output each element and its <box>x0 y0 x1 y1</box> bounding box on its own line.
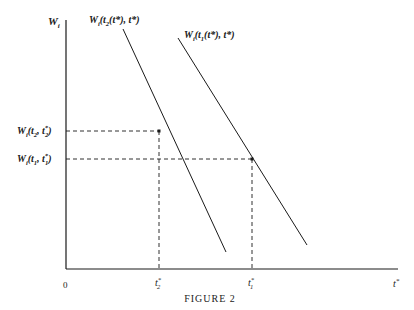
curve-wi-t1-label: Wi(t1(t*), t*) <box>184 29 235 42</box>
curve-wi-t2-label: Wi(t2(t*), t*) <box>89 14 140 27</box>
curve-wi-t2 <box>123 29 226 252</box>
x-axis-label: t* <box>393 277 400 289</box>
y-label-point-t1: Wi(t1, t*1) <box>17 152 52 166</box>
origin-label: 0 <box>63 280 68 290</box>
x-label-point-t2: t*2 <box>155 276 162 290</box>
figure-2-diagram: Wi 0 t* Wi(t2(t*), t*) Wi(t1(t*), t*) Wi… <box>0 0 414 310</box>
curve-wi-t1 <box>178 38 307 245</box>
point-t2 <box>158 130 161 133</box>
figure-caption: FIGURE 2 <box>184 293 236 304</box>
y-label-point-t2: Wi(t2, t*2) <box>17 124 52 138</box>
x-label-point-t1: t*1 <box>248 276 255 290</box>
point-t1 <box>251 158 254 161</box>
y-axis-label: Wi <box>48 15 60 30</box>
